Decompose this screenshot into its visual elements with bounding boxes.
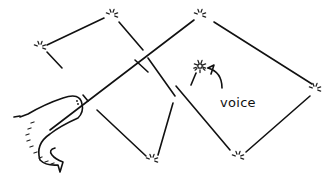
node-sparkle-icon <box>232 151 243 159</box>
node-sparkle-icon <box>146 154 157 162</box>
edge-line <box>135 60 148 72</box>
edge-line <box>119 22 143 50</box>
serpent-scale <box>26 134 29 135</box>
edge-line <box>50 20 194 130</box>
serpent-eye-icon <box>76 100 78 102</box>
voice-label: voice <box>220 95 256 110</box>
serpent-eye-icon <box>77 103 79 105</box>
edge-line <box>97 110 146 156</box>
edge-line <box>148 58 175 96</box>
diagram-canvas: voice <box>0 0 333 175</box>
voice-arrow <box>208 68 222 88</box>
edge-line <box>47 18 104 45</box>
edge-line <box>191 73 196 85</box>
node-sparkle-icon <box>194 9 205 17</box>
node-sparkle-icon <box>34 41 45 49</box>
serpent-scale <box>31 122 34 123</box>
voice-node-icon <box>194 60 206 72</box>
serpent-scale <box>34 152 37 153</box>
edge-line <box>47 52 62 68</box>
edge-line <box>83 95 88 101</box>
knot-diagram <box>0 0 333 175</box>
node-sparkle-icon <box>106 9 117 17</box>
serpent-scale <box>45 161 48 162</box>
serpent-scale <box>28 128 31 129</box>
serpent-scale <box>51 163 54 164</box>
edge-line <box>158 103 173 155</box>
serpent-scale <box>27 140 30 141</box>
edge-line <box>214 22 312 84</box>
serpent-scale <box>30 146 33 147</box>
serpent-tail <box>14 116 20 117</box>
node-sparkle-icon <box>309 83 320 91</box>
